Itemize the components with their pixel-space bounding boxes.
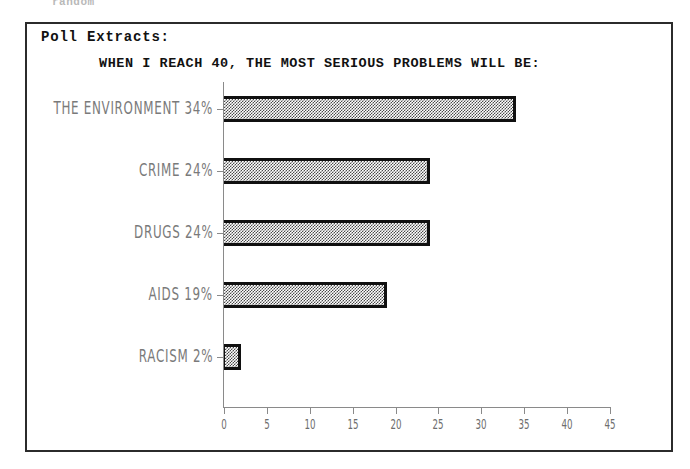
x-axis-tick	[353, 407, 354, 414]
bar	[224, 96, 516, 122]
x-axis-tick-label: 15	[347, 416, 358, 432]
x-axis-tick-label: 0	[221, 416, 227, 432]
x-axis-tick-label: 35	[519, 416, 530, 432]
x-axis-tick-label: 40	[562, 416, 573, 432]
category-label: THE ENVIRONMENT 34%	[53, 98, 213, 118]
x-axis-line	[223, 407, 610, 408]
category-label: RACISM 2%	[139, 346, 213, 366]
x-axis-tick	[567, 407, 568, 414]
category-label: DRUGS 24%	[134, 222, 213, 242]
x-axis-tick-label: 25	[433, 416, 444, 432]
x-axis-tick-label: 20	[390, 416, 401, 432]
bar-chart-plot: 051015202530354045 THE ENVIRONMENT 34%CR…	[27, 24, 675, 454]
bar	[224, 282, 387, 308]
category-label: AIDS 19%	[149, 284, 213, 304]
x-axis-tick-label: 45	[604, 416, 615, 432]
scan-artifact-text: random	[52, 0, 142, 6]
bar	[224, 344, 241, 370]
x-axis-tick	[224, 407, 225, 414]
y-axis-tick	[217, 171, 223, 172]
x-axis-tick-label: 30	[476, 416, 487, 432]
x-axis-tick	[396, 407, 397, 414]
x-axis-tick	[610, 407, 611, 414]
x-axis-tick	[481, 407, 482, 414]
y-axis-tick	[217, 357, 223, 358]
bar	[224, 158, 430, 184]
x-axis-tick	[310, 407, 311, 414]
bar	[224, 220, 430, 246]
y-axis-tick	[217, 233, 223, 234]
x-axis-tick-label: 5	[264, 416, 270, 432]
y-axis-tick	[217, 295, 223, 296]
poll-extracts-panel: Poll Extracts: WHEN I REACH 40, THE MOST…	[25, 22, 673, 452]
x-axis-tick-label: 10	[304, 416, 315, 432]
x-axis-tick	[267, 407, 268, 414]
x-axis-tick	[438, 407, 439, 414]
x-axis-tick	[524, 407, 525, 414]
category-label: CRIME 24%	[139, 160, 213, 180]
y-axis-tick	[217, 109, 223, 110]
